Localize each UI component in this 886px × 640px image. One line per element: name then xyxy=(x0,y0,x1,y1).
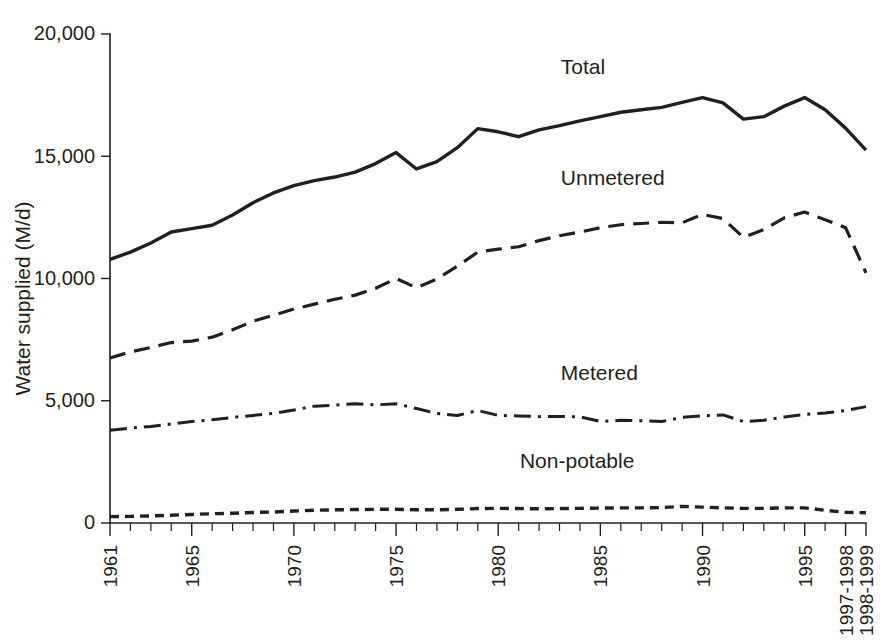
y-tick-label: 5,000 xyxy=(45,389,95,411)
water-supply-line-chart: 05,00010,00015,00020,000 196119651970197… xyxy=(0,0,886,640)
series-line-metered xyxy=(110,404,866,431)
chart-canvas: 05,00010,00015,00020,000 196119651970197… xyxy=(0,0,886,640)
data-series-lines xyxy=(110,98,866,517)
series-label-metered: Metered xyxy=(561,361,638,384)
y-tick-label: 10,000 xyxy=(34,267,95,289)
x-tick-label: 1980 xyxy=(488,545,509,587)
series-label-unmetered: Unmetered xyxy=(561,166,665,189)
x-tick-label: 1965 xyxy=(182,545,203,587)
x-axis-tick-labels: 196119651970197519801985199019951997-199… xyxy=(100,545,877,636)
y-axis-title: Water supplied (M/d) xyxy=(11,201,34,395)
y-axis-tick-labels: 05,00010,00015,00020,000 xyxy=(34,22,95,533)
x-tick-label: 1961 xyxy=(100,545,121,587)
x-tick-label: 1995 xyxy=(795,545,816,587)
series-label-non-potable: Non-potable xyxy=(520,449,634,472)
x-tick-label: 1985 xyxy=(590,545,611,587)
y-tick-label: 20,000 xyxy=(34,22,95,44)
series-line-unmetered xyxy=(110,212,866,358)
series-line-non-potable xyxy=(110,506,866,516)
y-tick-label: 15,000 xyxy=(34,145,95,167)
x-tick-label: 1975 xyxy=(386,545,407,587)
axis-ticks xyxy=(101,34,866,536)
x-tick-label: 1970 xyxy=(284,545,305,587)
y-tick-label: 0 xyxy=(84,511,95,533)
x-tick-label: 1997-1998 xyxy=(836,545,857,636)
chart-axes xyxy=(110,34,866,523)
x-tick-label: 1990 xyxy=(693,545,714,587)
x-tick-label: 1998-1999 xyxy=(856,545,877,636)
axis-lines xyxy=(110,34,866,523)
series-label-total: Total xyxy=(561,55,605,78)
